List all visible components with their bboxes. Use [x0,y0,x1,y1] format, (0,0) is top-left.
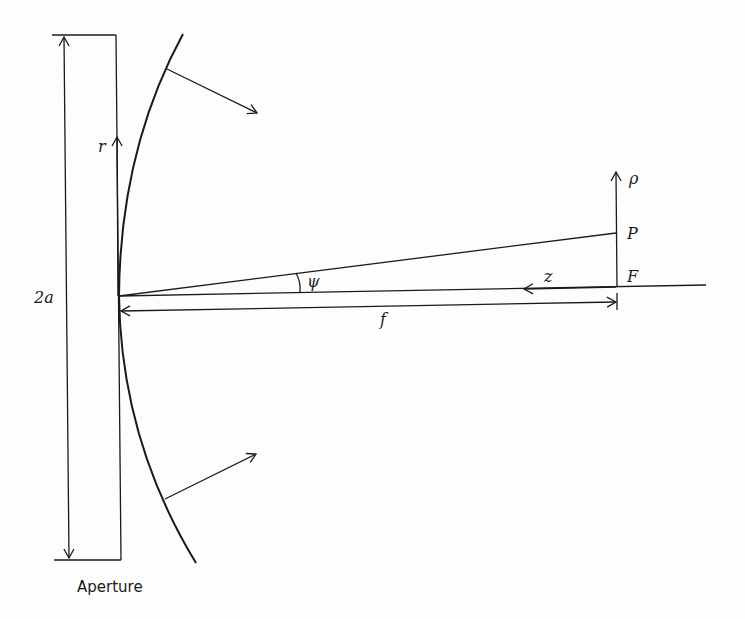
angle-arc [296,273,300,292]
diagram-canvas: r 2a ψ z f F P ρ Aperture [0,0,745,619]
label-z: z [543,267,553,286]
normal-arrow-upper [167,69,257,113]
label-rho: ρ [628,169,639,188]
label-diameter: 2a [33,288,54,307]
label-r: r [98,137,107,156]
optical-axis [119,285,706,296]
label-F: F [626,267,639,286]
r-axis-arrow [117,137,118,296]
f-dimension-arrow [121,302,616,311]
reflector-diagram: r 2a ψ z f F P ρ Aperture [0,0,745,619]
ray-to-P [119,233,616,296]
reflector-curve [119,34,196,563]
label-psi: ψ [307,272,320,291]
rho-axis-arrow [616,172,617,287]
normal-arrow-lower [165,454,256,499]
label-P: P [626,224,638,243]
aperture-plane [52,35,121,560]
diameter-dimension-arrow [64,37,69,558]
label-f: f [379,310,389,329]
label-aperture: Aperture [77,578,143,596]
